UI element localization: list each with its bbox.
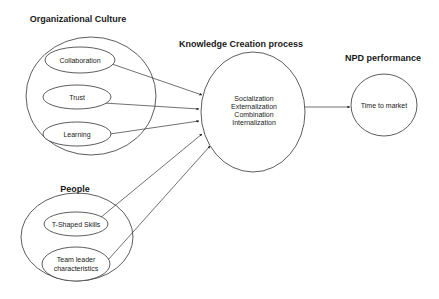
tshaped-label: T-Shaped Skills bbox=[52, 221, 101, 229]
knowledge-line-internalization: Internalization bbox=[232, 119, 276, 126]
edge-teamleader-to-knowledge bbox=[108, 146, 210, 260]
node-learning: Learning bbox=[43, 122, 111, 146]
knowledge-title: Knowledge Creation process bbox=[179, 39, 303, 49]
diagram-canvas: Organizational Culture Collaboration Tru… bbox=[0, 0, 439, 299]
knowledge-line-socialization: Socialization bbox=[234, 95, 273, 102]
people-title: People bbox=[60, 184, 90, 194]
npd-title: NPD performance bbox=[345, 53, 421, 63]
trust-label: Trust bbox=[69, 94, 85, 101]
team-leader-label-line2: characteristics bbox=[54, 265, 99, 272]
org-culture-title: Organizational Culture bbox=[30, 14, 127, 24]
node-team-leader: Team leader characteristics bbox=[42, 247, 110, 281]
time-to-market-label: Time to market bbox=[361, 102, 407, 109]
collaboration-label: Collaboration bbox=[59, 57, 100, 64]
node-time-to-market: Time to market bbox=[351, 74, 417, 136]
knowledge-line-externalization: Externalization bbox=[231, 103, 277, 110]
team-leader-label-line1: Team leader bbox=[57, 256, 96, 263]
node-knowledge-creation: Socialization Externalization Combinatio… bbox=[201, 52, 305, 172]
node-trust: Trust bbox=[43, 85, 111, 109]
knowledge-line-combination: Combination bbox=[234, 111, 273, 118]
node-tshaped-skills: T-Shaped Skills bbox=[44, 212, 108, 236]
node-collaboration: Collaboration bbox=[45, 47, 115, 73]
learning-label: Learning bbox=[63, 131, 90, 139]
team-leader-ellipse bbox=[42, 247, 110, 281]
